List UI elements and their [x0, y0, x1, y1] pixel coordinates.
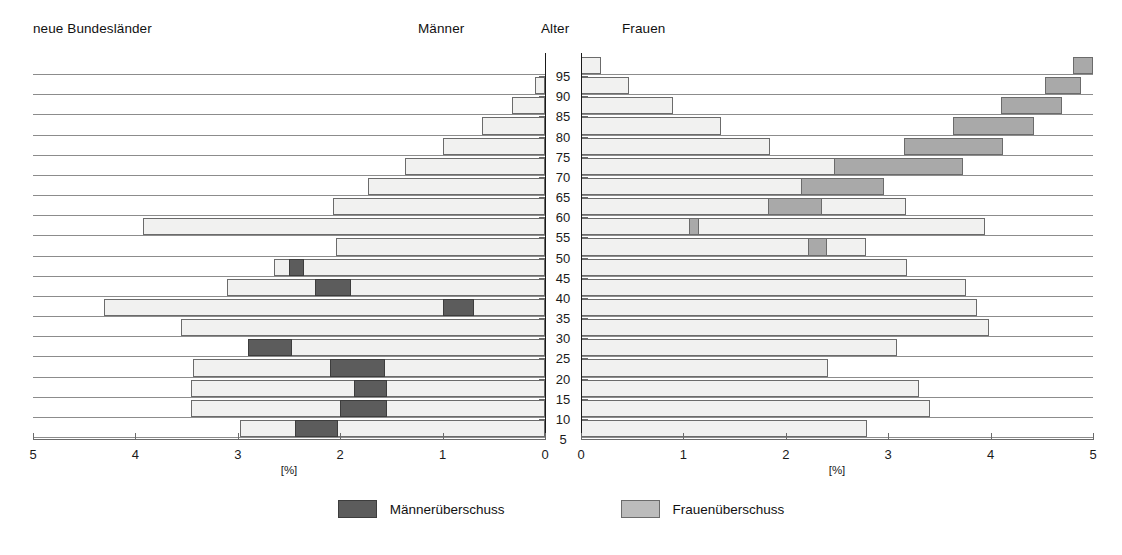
x-axis-tick-label: 4 [132, 447, 139, 462]
bar-segment-base [581, 158, 840, 175]
age-axis-tick-label: 25 [550, 351, 576, 366]
grid-line [33, 336, 545, 337]
bar-row [581, 419, 1093, 438]
age-axis-tick-label: 80 [550, 129, 576, 144]
bar-segment-surplus [808, 238, 826, 255]
y-axis-tick-left [539, 76, 545, 77]
grid-line [33, 175, 545, 176]
bar-row [581, 197, 1093, 216]
y-axis-tick-left [539, 358, 545, 359]
x-unit-left: [%] [281, 464, 298, 476]
bar-segment-base [581, 380, 919, 397]
bar-segment-base [581, 97, 673, 114]
bar-row [581, 237, 1093, 256]
grid-line [581, 94, 1093, 95]
y-axis-tick-right [582, 237, 588, 238]
grid-line [581, 437, 1093, 438]
legend-item-label: Frauenüberschuss [673, 502, 785, 517]
grid-line [33, 397, 545, 398]
x-axis-tick-label: 4 [987, 447, 994, 462]
bar-segment-surplus [289, 259, 304, 276]
bar-row [581, 399, 1093, 418]
x-axis-tick-label: 3 [234, 447, 241, 462]
bar-row [581, 76, 1093, 95]
y-axis-tick-right [582, 217, 588, 218]
grid-line [33, 437, 545, 438]
age-axis-tick-label: 85 [550, 109, 576, 124]
male-surplus-swatch [338, 500, 377, 518]
y-axis-tick-left [539, 278, 545, 279]
grid-line [581, 215, 1093, 216]
y-axis-tick-right [582, 76, 588, 77]
bar-segment-surplus [340, 400, 387, 417]
bar-row [33, 419, 545, 438]
grid-line [581, 397, 1093, 398]
x-axis-tick-label: 1 [439, 447, 446, 462]
legend-item: Frauenüberschuss [621, 500, 785, 518]
bar-row [33, 338, 545, 357]
grid-line [581, 235, 1093, 236]
grid-line [33, 155, 545, 156]
x-axis-tick [991, 433, 992, 440]
bar-segment-surplus [768, 198, 821, 215]
y-axis-tick-right [582, 399, 588, 400]
x-axis-tick-label: 5 [1089, 447, 1096, 462]
y-axis-left [545, 53, 546, 440]
y-axis-tick-left [539, 419, 545, 420]
age-axis-tick-label: 75 [550, 149, 576, 164]
age-axis-tick-label: 45 [550, 270, 576, 285]
bar-segment-surplus [1001, 97, 1062, 114]
plot-area: 543210 012345 95908580757065605550454035… [0, 0, 1122, 445]
y-axis-tick-right [582, 419, 588, 420]
bar-row [33, 379, 545, 398]
grid-line [581, 417, 1093, 418]
grid-line [33, 296, 545, 297]
y-axis-tick-right [582, 278, 588, 279]
bar-row [581, 278, 1093, 297]
y-axis-tick-right [582, 258, 588, 259]
y-axis-tick-right [582, 157, 588, 158]
bar-segment-base [443, 138, 545, 155]
female-bars-panel [581, 56, 1093, 439]
bar-segment-base [535, 77, 545, 94]
grid-line [581, 356, 1093, 357]
bar-segment-surplus [443, 299, 475, 316]
y-axis-tick-left [539, 137, 545, 138]
bar-segment-base [581, 198, 906, 215]
grid-line [581, 114, 1093, 115]
bar-row [581, 358, 1093, 377]
bar-segment-base [227, 279, 545, 296]
bar-segment-base [512, 97, 545, 114]
y-axis-tick-right [582, 96, 588, 97]
bar-row [33, 278, 545, 297]
y-axis-tick-left [539, 258, 545, 259]
legend-item-label: Männerüberschuss [390, 502, 505, 517]
bar-segment-base [181, 319, 545, 336]
bar-row [581, 137, 1093, 156]
y-axis-tick-left [539, 96, 545, 97]
bar-segment-surplus [801, 178, 884, 195]
bar-segment-base [240, 420, 545, 437]
bar-row [33, 217, 545, 236]
x-axis-left [33, 439, 546, 440]
x-axis-tick-label: 2 [337, 447, 344, 462]
grid-line [581, 256, 1093, 257]
bar-row [33, 258, 545, 277]
bar-segment-base [143, 218, 545, 235]
x-axis-tick-label: 1 [680, 447, 687, 462]
y-axis-tick-right [582, 197, 588, 198]
x-axis-tick [786, 433, 787, 440]
grid-line [33, 417, 545, 418]
bar-segment-base [581, 319, 989, 336]
y-axis-tick-left [539, 157, 545, 158]
x-axis-tick [135, 433, 136, 440]
grid-line [33, 316, 545, 317]
y-axis-tick-right [582, 298, 588, 299]
bar-row [581, 157, 1093, 176]
x-axis-tick-label: 2 [782, 447, 789, 462]
y-axis-tick-right [582, 177, 588, 178]
x-axis-tick [33, 433, 34, 440]
bar-row [581, 217, 1093, 236]
age-axis-tick-label: 15 [550, 391, 576, 406]
age-axis-tick-label: 65 [550, 190, 576, 205]
